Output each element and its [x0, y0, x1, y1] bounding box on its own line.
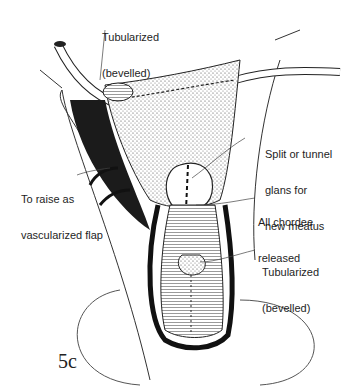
- label-line: To raise as: [21, 193, 103, 205]
- label-line: (bevelled): [262, 302, 319, 314]
- surgical-illustration: Tubularized (bevelled) Split or tunnel g…: [0, 0, 349, 387]
- figure-number: 5c: [58, 350, 77, 373]
- label-line: Tubularized: [102, 31, 159, 43]
- tubularized-urethra: [178, 255, 205, 275]
- label-vascularized-flap: To raise as vascularized flap: [21, 169, 103, 265]
- label-line: vascularized flap: [21, 229, 103, 241]
- label-line: Split or tunnel: [265, 148, 332, 160]
- label-tubularized-bottom: Tubularized (bevelled): [262, 242, 319, 338]
- label-tubularized-top: Tubularized (bevelled): [102, 7, 159, 103]
- label-line: Tubularized: [262, 266, 319, 278]
- label-line: (bevelled): [102, 67, 159, 79]
- scrotum-left: [77, 290, 140, 385]
- label-line: All chordee: [258, 216, 313, 228]
